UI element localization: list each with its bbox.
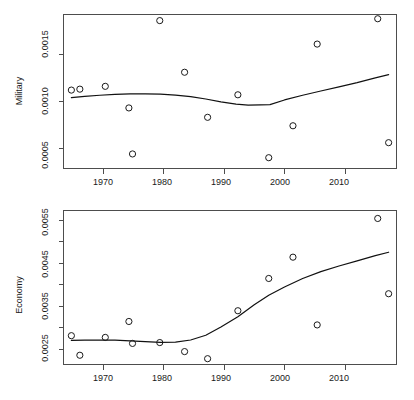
military-point bbox=[375, 16, 381, 22]
military-data-points bbox=[68, 16, 391, 161]
economy-x-tick-label-1: 1980 bbox=[152, 373, 172, 383]
economy-plot-svg: Economy 0.0025 0.0035 0.0045 0.0055 1970… bbox=[0, 200, 414, 400]
military-x-tick-label-2: 1990 bbox=[211, 177, 231, 187]
military-x-tick-labels: 1970 1980 1990 2000 2010 bbox=[93, 177, 349, 187]
military-y-tick-labels: 0.0005 0.0010 0.0015 bbox=[40, 30, 50, 169]
economy-y-tick-label-0: 0.0025 bbox=[40, 334, 50, 362]
military-point bbox=[266, 155, 272, 161]
military-point bbox=[386, 140, 392, 146]
economy-y-tick-label-4: 0.0045 bbox=[40, 250, 50, 278]
military-point bbox=[157, 18, 163, 24]
military-x-tick-label-3: 2000 bbox=[270, 177, 290, 187]
economy-y-tick-labels: 0.0025 0.0035 0.0045 0.0055 bbox=[40, 208, 50, 362]
military-point bbox=[235, 92, 241, 98]
military-point bbox=[102, 83, 108, 89]
economy-point bbox=[68, 333, 74, 339]
military-point bbox=[314, 41, 320, 47]
economy-x-tick-label-0: 1970 bbox=[93, 373, 113, 383]
military-plot-svg: Military 0.0005 0.0010 0.0015 1970 1980 … bbox=[0, 0, 414, 200]
military-point bbox=[68, 87, 74, 93]
economy-y-tick-label-6: 0.0055 bbox=[40, 208, 50, 236]
military-trend-line bbox=[71, 75, 388, 106]
economy-point bbox=[386, 291, 392, 297]
military-y-tick-label-0: 0.0005 bbox=[40, 141, 50, 169]
military-point bbox=[181, 69, 187, 75]
military-tick-marks bbox=[59, 55, 346, 174]
military-x-tick-label-0: 1970 bbox=[93, 177, 113, 187]
military-point bbox=[126, 105, 132, 111]
economy-x-tick-label-4: 2010 bbox=[329, 373, 349, 383]
economy-point bbox=[266, 275, 272, 281]
military-point bbox=[77, 86, 83, 92]
military-x-tick-label-4: 2010 bbox=[329, 177, 349, 187]
military-y-tick-label-2: 0.0015 bbox=[40, 30, 50, 58]
military-x-tick-label-1: 1980 bbox=[152, 177, 172, 187]
chart-panel-economy: Economy 0.0025 0.0035 0.0045 0.0055 1970… bbox=[0, 200, 414, 400]
figure-root: Military 0.0005 0.0010 0.0015 1970 1980 … bbox=[0, 0, 414, 400]
economy-trend-line bbox=[71, 252, 388, 342]
economy-point bbox=[314, 322, 320, 328]
economy-point bbox=[290, 254, 296, 260]
economy-plot-frame bbox=[64, 211, 397, 365]
economy-point bbox=[375, 215, 381, 221]
economy-point bbox=[205, 356, 211, 362]
economy-x-tick-label-2: 1990 bbox=[211, 373, 231, 383]
economy-point bbox=[181, 348, 187, 354]
economy-y-axis-title-group: Economy bbox=[14, 276, 24, 314]
military-point bbox=[290, 123, 296, 129]
economy-x-tick-label-3: 2000 bbox=[270, 373, 290, 383]
economy-y-axis-title: Economy bbox=[14, 276, 24, 314]
economy-point bbox=[235, 308, 241, 314]
economy-point bbox=[77, 352, 83, 358]
economy-y-tick-label-2: 0.0035 bbox=[40, 292, 50, 320]
chart-panel-military: Military 0.0005 0.0010 0.0015 1970 1980 … bbox=[0, 0, 414, 200]
economy-x-tick-labels: 1970 1980 1990 2000 2010 bbox=[93, 373, 349, 383]
military-point bbox=[205, 114, 211, 120]
economy-point bbox=[126, 318, 132, 324]
military-point bbox=[129, 151, 135, 157]
military-plot-frame bbox=[64, 15, 397, 169]
military-y-tick-label-1: 0.0010 bbox=[40, 87, 50, 115]
military-y-axis-title-group: Military bbox=[14, 76, 24, 105]
economy-tick-marks bbox=[59, 221, 346, 370]
military-y-axis-title: Military bbox=[14, 76, 24, 105]
